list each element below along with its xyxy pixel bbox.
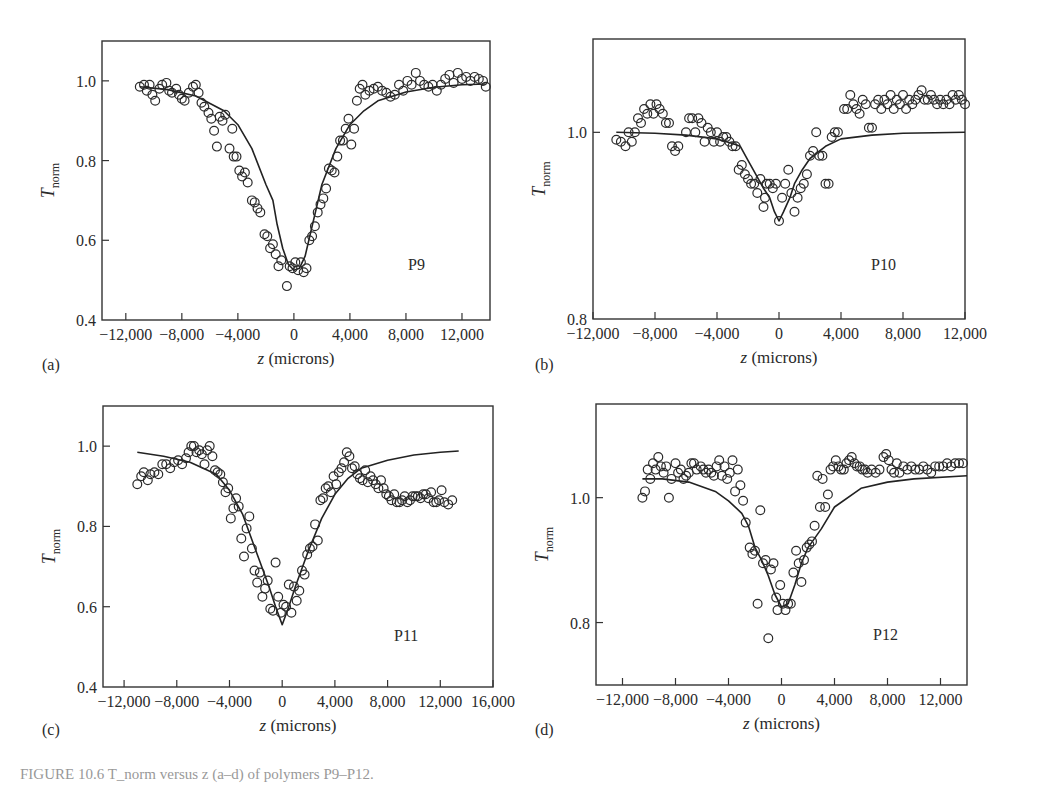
- data-point: [348, 464, 357, 473]
- data-point: [437, 80, 446, 89]
- data-points: [133, 442, 457, 617]
- plot-frame: [596, 404, 967, 685]
- panel-letter: (a): [42, 356, 60, 374]
- data-point: [797, 578, 806, 587]
- data-point: [790, 207, 799, 216]
- x-tick-label: 0: [775, 325, 783, 342]
- x-tick-label: 4,000: [332, 326, 368, 343]
- fit-curve: [616, 132, 965, 221]
- y-tick-label: 1.0: [77, 438, 97, 455]
- data-point: [200, 460, 209, 469]
- x-tick-label: −12,000: [596, 691, 649, 708]
- data-point: [435, 496, 444, 505]
- data-point: [753, 599, 762, 608]
- data-point: [311, 520, 320, 529]
- x-tick-label: 0: [778, 691, 786, 708]
- data-point: [327, 166, 336, 175]
- x-tick-label: −4,000: [207, 693, 252, 710]
- data-point: [344, 114, 353, 123]
- data-point: [728, 456, 737, 465]
- data-point: [213, 142, 222, 151]
- y-axis-label: Tnorm: [38, 162, 62, 198]
- x-tick-label: −8,000: [653, 691, 698, 708]
- data-point: [761, 193, 770, 202]
- data-point: [759, 203, 768, 212]
- y-tick-label: 0.4: [77, 679, 97, 696]
- x-tick-label: −4,000: [215, 326, 260, 343]
- data-point: [271, 558, 280, 567]
- series-label: P9: [408, 256, 425, 273]
- data-point: [691, 128, 700, 137]
- x-tick-label: 0: [290, 326, 298, 343]
- x-axis-label: z (microns): [259, 716, 337, 735]
- data-point: [846, 91, 855, 100]
- data-point: [250, 566, 259, 575]
- data-point: [180, 96, 189, 105]
- data-point: [266, 604, 275, 613]
- y-tick-label: 0.8: [76, 153, 96, 170]
- x-tick-label: −12,000: [99, 326, 152, 343]
- data-point: [283, 282, 292, 291]
- x-tick-label: −4,000: [694, 325, 739, 342]
- data-point: [453, 69, 462, 78]
- data-point: [279, 600, 288, 609]
- y-tick-label: 1.0: [76, 73, 96, 90]
- panel-letter: (b): [535, 356, 554, 374]
- plot-frame: [103, 406, 493, 687]
- data-point: [228, 124, 237, 133]
- y-tick-label: 0.6: [76, 232, 96, 249]
- data-point: [778, 193, 787, 202]
- y-axis-label: Tnorm: [529, 161, 553, 197]
- data-point: [803, 170, 812, 179]
- data-point: [194, 88, 203, 97]
- data-point: [736, 481, 745, 490]
- data-point: [274, 592, 283, 601]
- data-point: [245, 512, 254, 521]
- data-point: [210, 126, 219, 135]
- data-point: [350, 124, 359, 133]
- panel-letter: (c): [42, 721, 60, 739]
- data-point: [253, 578, 262, 587]
- x-tick-label: 4,000: [823, 325, 859, 342]
- chart-panel-p11: −12,000−8,000−4,00004,0008,00012,00016,0…: [39, 406, 515, 739]
- data-point: [263, 232, 272, 241]
- y-axis-label: Tnorm: [39, 528, 63, 564]
- y-tick-label: 0.8: [77, 518, 97, 535]
- data-point: [240, 552, 249, 561]
- data-point: [824, 490, 833, 499]
- x-tick-label: −4,000: [706, 691, 751, 708]
- x-tick-label: 4,000: [817, 691, 853, 708]
- x-tick-label: −8,000: [159, 326, 204, 343]
- x-tick-label: 12,000: [418, 693, 462, 710]
- data-point: [877, 105, 886, 114]
- data-point: [411, 69, 420, 78]
- data-point: [243, 178, 252, 187]
- data-point: [292, 596, 301, 605]
- data-point: [229, 504, 238, 513]
- x-tick-label: 16,000: [471, 693, 515, 710]
- fit-curve: [642, 476, 967, 607]
- data-point: [333, 152, 342, 161]
- data-points: [612, 86, 970, 226]
- data-point: [789, 568, 798, 577]
- x-tick-label: 12,000: [943, 325, 987, 342]
- x-tick-label: 0: [278, 693, 286, 710]
- data-point: [654, 453, 663, 462]
- data-point: [255, 568, 264, 577]
- data-point: [764, 634, 773, 643]
- data-point: [313, 536, 322, 545]
- data-point: [713, 128, 722, 137]
- series-label: P10: [871, 256, 896, 273]
- data-point: [902, 105, 911, 114]
- data-point: [226, 514, 235, 523]
- y-axis-label: Tnorm: [532, 526, 556, 562]
- data-point: [237, 534, 246, 543]
- data-point: [248, 196, 257, 205]
- data-point: [700, 137, 709, 146]
- data-point: [399, 86, 408, 95]
- x-tick-label: −8,000: [632, 325, 677, 342]
- plot-frame: [102, 41, 490, 320]
- chart-panel-p9: −12,000−8,000−4,00004,0008,00012,0000.40…: [38, 41, 490, 374]
